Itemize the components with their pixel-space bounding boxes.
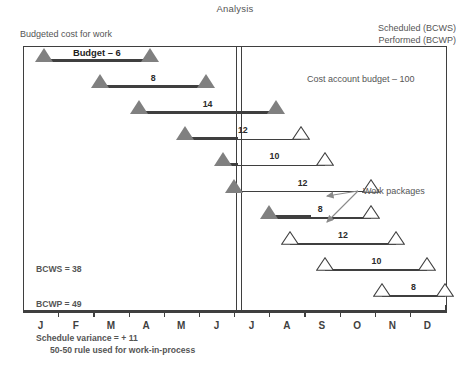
work-package-progress-bar — [44, 59, 150, 62]
x-axis-month-label: J — [38, 320, 44, 331]
work-package-line — [290, 243, 396, 245]
milestone-triangle-filled — [35, 48, 53, 62]
x-axis-tick — [199, 311, 200, 317]
work-package-progress-bar — [100, 85, 206, 88]
footnote: 50-50 rule used for work-in-process — [50, 345, 195, 355]
milestone-triangle-open — [362, 205, 380, 219]
work-package-value-label: 12 — [238, 125, 248, 135]
work-package-line — [223, 165, 325, 167]
work-package-value-label: 8 — [318, 204, 323, 214]
header-label-left: Budgeted cost for work — [20, 29, 112, 39]
milestone-triangle-filled — [130, 100, 148, 114]
x-axis-tick — [340, 311, 341, 317]
budget-label: Budget – 6 — [73, 47, 121, 58]
x-axis-month-label: J — [249, 320, 255, 331]
milestone-triangle-open — [373, 283, 391, 297]
x-axis-month-label: D — [424, 320, 431, 331]
work-package-progress-bar — [139, 111, 276, 114]
x-axis-month-label: A — [283, 320, 290, 331]
milestone-triangle-open — [316, 257, 334, 271]
x-axis-month-label: O — [353, 320, 361, 331]
x-axis-end-cap — [445, 305, 446, 312]
work-package-value-label: 12 — [338, 230, 348, 240]
milestone-triangle-filled — [176, 126, 194, 140]
x-axis-tick — [164, 311, 165, 317]
x-axis-tick — [234, 311, 235, 317]
x-axis-month-label: J — [214, 320, 220, 331]
x-axis-month-label: M — [177, 320, 185, 331]
x-axis-month-label: F — [73, 320, 79, 331]
work-packages-callout-label: Work packages — [363, 186, 425, 196]
milestone-triangle-open — [387, 231, 405, 245]
bcws-value: BCWS = 38 — [36, 264, 138, 276]
work-package-value-label: 8 — [411, 282, 416, 292]
milestone-triangle-filled — [91, 74, 109, 88]
x-axis-tick — [129, 311, 130, 317]
x-axis-tick — [58, 311, 59, 317]
work-package-row[interactable]: 8 — [0, 0, 470, 26]
x-axis-start-cap — [23, 305, 24, 312]
milestone-triangle-open — [292, 126, 310, 140]
x-axis-month-label: A — [142, 320, 149, 331]
work-package-value-label: 10 — [372, 256, 382, 266]
x-axis-tick — [410, 311, 411, 317]
x-axis-tick — [375, 311, 376, 317]
x-axis-month-label: M — [107, 320, 115, 331]
work-package-value-label: 8 — [151, 73, 156, 83]
x-axis-tick — [93, 311, 94, 317]
work-package-line — [234, 191, 371, 193]
work-package-line — [325, 269, 427, 271]
schedule-variance-value: Schedule variance = + 11 — [36, 333, 138, 345]
x-axis-tick — [269, 311, 270, 317]
x-axis-month-label: S — [319, 320, 326, 331]
milestone-triangle-filled — [260, 205, 278, 219]
milestone-triangle-filled — [141, 48, 159, 62]
summary-notes: BCWS = 38 BCWP = 49 Schedule variance = … — [36, 241, 138, 356]
cost-account-budget-label: Cost account budget – 100 — [307, 74, 415, 84]
milestone-triangle-filled — [267, 100, 285, 114]
x-axis-tick — [304, 311, 305, 317]
work-package-value-label: 14 — [203, 99, 213, 109]
milestone-triangle-open — [418, 257, 436, 271]
work-package-value-label: 12 — [298, 178, 308, 188]
milestone-triangle-open — [436, 283, 454, 297]
milestone-triangle-filled — [214, 152, 232, 166]
milestone-triangle-open — [316, 152, 334, 166]
milestone-triangle-filled — [197, 74, 215, 88]
x-axis-month-label: N — [389, 320, 396, 331]
milestone-triangle-open — [281, 231, 299, 245]
bcwp-value: BCWP = 49 — [36, 299, 138, 311]
milestone-triangle-filled — [225, 179, 243, 193]
work-package-value-label: 10 — [270, 151, 280, 161]
header-performed-label: Performed (BCWP) — [378, 34, 456, 46]
